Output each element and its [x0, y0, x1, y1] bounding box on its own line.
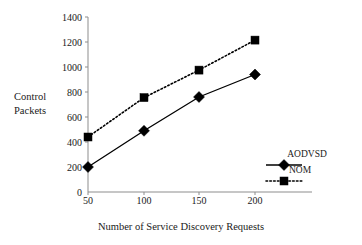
data-point-nom: [251, 36, 259, 44]
y-axis-title-line-2: Packets: [14, 105, 46, 116]
legend-label-nom: NOM: [289, 165, 312, 175]
data-point-aodvsd: [83, 162, 94, 173]
square-icon: [280, 177, 288, 185]
diamond-icon: [279, 160, 290, 171]
chart-legend: AODVSD NOM: [266, 149, 327, 185]
data-point-nom: [140, 94, 148, 102]
x-axis-title: Number of Service Discovery Requests: [98, 221, 264, 232]
data-point-nom: [84, 133, 92, 141]
y-axis-title-line-1: Control: [14, 91, 46, 102]
y-tick-label: 1000: [62, 62, 82, 73]
line-chart: Control Packets 0 200 400 600 800 1000 1…: [0, 0, 362, 245]
x-tick-label: 50: [83, 195, 93, 206]
x-tick-label: 150: [192, 195, 207, 206]
data-point-aodvsd: [194, 92, 205, 103]
x-tick-label: 100: [137, 195, 152, 206]
chart-figure: Control Packets 0 200 400 600 800 1000 1…: [0, 0, 362, 245]
y-tick-label: 200: [67, 162, 82, 173]
y-tick-label: 400: [67, 137, 82, 148]
y-tick-label: 0: [77, 187, 82, 198]
legend-item-nom[interactable]: NOM: [266, 165, 312, 185]
y-tick-label: 600: [67, 112, 82, 123]
series-aodvsd-line: [88, 75, 255, 168]
y-tick-label: 800: [67, 87, 82, 98]
y-tick-label: 1400: [62, 12, 82, 23]
data-point-aodvsd: [139, 125, 150, 136]
y-tick-label: 1200: [62, 37, 82, 48]
x-axis-tick-labels: 50 100 150 200: [83, 195, 263, 206]
x-tick-label: 200: [248, 195, 263, 206]
series-nom: [84, 36, 259, 141]
data-point-aodvsd: [250, 69, 261, 80]
y-axis-tick-labels: 0 200 400 600 800 1000 1200 1400: [62, 12, 82, 198]
y-axis-title: Control Packets: [14, 91, 46, 116]
data-point-nom: [195, 66, 203, 74]
legend-label-aodvsd: AODVSD: [287, 149, 327, 159]
series-nom-line: [88, 40, 255, 137]
